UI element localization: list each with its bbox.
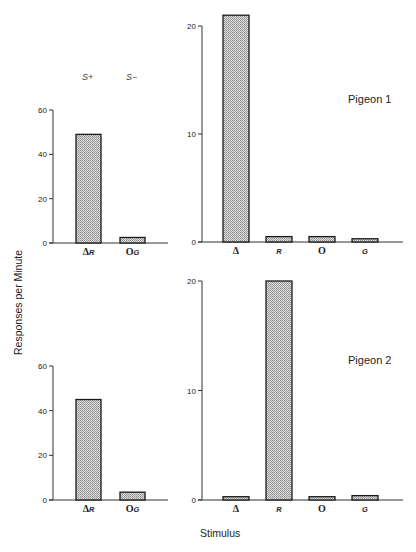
pigeon-1-label: Pigeon 1 [348,93,391,105]
chart-annotations: S+ S− Pigeon 1 Pigeon 2 Responses per Mi… [0,0,416,552]
pigeon-2-label: Pigeon 2 [348,354,391,366]
s-minus-label: S− [126,72,137,82]
y-axis-title: Responses per Minute [12,250,24,355]
x-axis-title: Stimulus [200,527,240,539]
s-plus-label: S+ [82,72,93,82]
